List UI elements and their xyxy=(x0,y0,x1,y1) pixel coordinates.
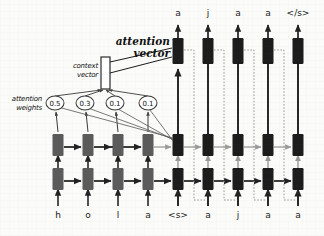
encoder-interlayer-arrows xyxy=(58,155,148,172)
decoder-output-token-4: </s> xyxy=(287,8,310,18)
attention-weights-label: attention weights xyxy=(2,95,42,112)
decoder-input-arrows xyxy=(178,189,298,206)
context-vector-box xyxy=(101,57,110,89)
decoder-output-token-2: a xyxy=(235,8,241,18)
encoder-input-arrows xyxy=(58,189,148,206)
decoder-output-token-3: a xyxy=(265,8,271,18)
encoder-input-token-1: o xyxy=(85,210,91,220)
attention-weight-3: 0.1 xyxy=(139,96,158,111)
encoder-input-token-0: h xyxy=(55,210,61,220)
decoder-output-token-1: j xyxy=(207,8,210,18)
attention-weight-2: 0.1 xyxy=(106,96,125,111)
output-emit-arrows xyxy=(178,25,298,38)
attention-weight-1: 0.3 xyxy=(76,96,95,111)
decoder-input-token-1: a xyxy=(205,210,211,220)
attention-weight-0: 0.5 xyxy=(46,96,65,111)
decoder-output-token-0: a xyxy=(175,8,181,18)
encoder-to-weights-arrows xyxy=(56,112,148,132)
decoder-input-token-4: a xyxy=(295,210,301,220)
attention-seq2seq-diagram: 0.5 0.3 0.1 0.1 attention weights contex… xyxy=(0,0,324,236)
encoder-input-token-3: a xyxy=(145,210,151,220)
context-vector-label: context vector xyxy=(55,62,98,79)
decoder-input-token-3: a xyxy=(265,210,271,220)
decoder-input-token-0: <s> xyxy=(168,210,188,220)
encoder-input-token-2: l xyxy=(117,210,120,220)
decoder-input-token-2: j xyxy=(237,210,240,220)
weights-to-context-arrows xyxy=(55,90,148,96)
attention-vector-label: attention vector xyxy=(106,35,170,59)
